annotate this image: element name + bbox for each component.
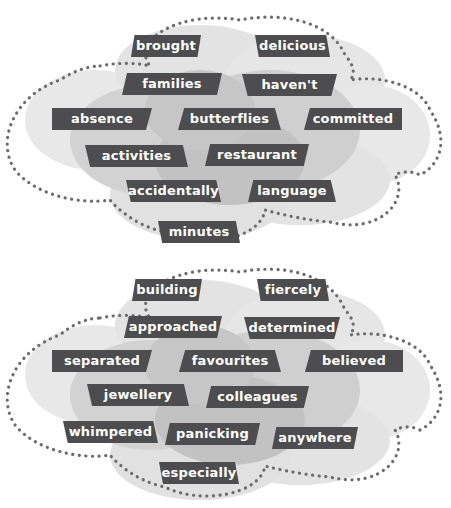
word-label: whimpered — [63, 421, 158, 443]
word-label: haven't — [242, 74, 337, 96]
word-label: building — [132, 279, 202, 301]
word-label: butterflies — [178, 108, 281, 130]
word-label: panicking — [165, 423, 260, 445]
word-label: believed — [305, 350, 403, 372]
word-label: colleagues — [206, 386, 309, 408]
word-label: brought — [131, 35, 201, 57]
word-label: restaurant — [205, 144, 309, 166]
cloud-1-fill — [25, 25, 430, 240]
word-label: delicious — [255, 35, 330, 57]
word-label: determined — [244, 317, 340, 339]
word-label: anywhere — [272, 427, 358, 449]
word-label: activities — [85, 145, 188, 167]
word-label: language — [248, 180, 336, 202]
word-label: jewellery — [87, 384, 189, 406]
word-label: families — [122, 73, 222, 95]
word-label: absence — [52, 108, 152, 130]
word-label: fiercely — [257, 279, 329, 301]
word-label: accidentally — [126, 180, 221, 202]
word-label: approached — [124, 316, 222, 338]
word-label: separated — [52, 350, 152, 372]
word-label: especially — [159, 462, 239, 484]
word-label: minutes — [158, 221, 240, 243]
word-label: favourites — [179, 350, 281, 372]
word-label: committed — [304, 108, 402, 130]
